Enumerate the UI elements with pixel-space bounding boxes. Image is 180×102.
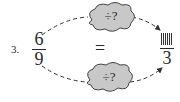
left-fraction: 6 9 <box>32 31 46 68</box>
right-fraction: 3 <box>160 33 174 67</box>
problem-number: 3. <box>11 43 19 55</box>
bottom-cloud-label: ÷? <box>89 69 129 85</box>
right-denominator: 3 <box>160 50 174 67</box>
arrow-diagram <box>0 0 180 102</box>
left-denominator: 9 <box>32 51 46 68</box>
top-left-arc <box>42 17 88 35</box>
equals-sign: = <box>95 38 105 59</box>
top-right-arrow <box>132 17 160 30</box>
top-cloud-label: ÷? <box>91 8 131 24</box>
left-numerator: 6 <box>32 31 46 48</box>
numerator-blank-box[interactable] <box>161 33 173 45</box>
bottom-left-arc <box>42 66 86 82</box>
bottom-right-arrow <box>130 68 162 82</box>
